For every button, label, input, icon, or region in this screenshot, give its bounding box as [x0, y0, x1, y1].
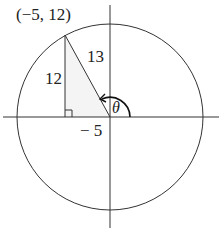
point-label: (−5, 12): [16, 6, 71, 23]
diagram-graphics: [0, 0, 224, 233]
adjacent-label: − 5: [80, 122, 102, 139]
hypotenuse-label: 13: [87, 48, 104, 65]
unit-circle-diagram: (−5, 12) 13 12 − 5 θ: [0, 0, 224, 233]
opposite-label: 12: [45, 70, 62, 87]
angle-label: θ: [112, 100, 120, 116]
